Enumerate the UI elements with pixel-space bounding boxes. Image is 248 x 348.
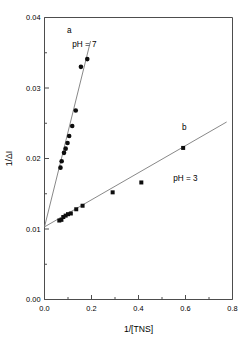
double-reciprocal-plot: 0.00.20.40.60.8 0.000.010.020.030.04 apH… <box>0 0 248 348</box>
x-tick-label: 0.0 <box>39 304 49 313</box>
data-point <box>139 180 143 184</box>
figure-container: 0.00.20.40.60.8 0.000.010.020.030.04 apH… <box>0 0 248 348</box>
annotation-ph7: pH = 7 <box>72 40 97 49</box>
y-tick-label: 0.00 <box>26 295 40 304</box>
data-point <box>181 146 185 150</box>
y-tick-label: 0.01 <box>26 225 40 234</box>
x-tick-label: 0.2 <box>86 304 96 313</box>
y-tick-label: 0.03 <box>26 84 40 93</box>
data-point <box>65 141 70 146</box>
data-point <box>81 204 85 208</box>
y-tick-label: 0.02 <box>26 154 40 163</box>
x-axis-title: 1/[TNS] <box>124 324 153 334</box>
data-point <box>59 159 64 164</box>
data-point <box>70 124 75 129</box>
curve-label-a: a <box>67 26 72 35</box>
x-tick-label: 0.4 <box>133 304 143 313</box>
data-point <box>73 108 78 113</box>
data-point <box>67 134 72 139</box>
data-point <box>85 57 90 62</box>
data-point <box>74 207 78 211</box>
y-axis-title: 1/ΔI <box>4 151 14 166</box>
x-tick-label: 0.8 <box>227 304 237 313</box>
data-point <box>58 165 63 170</box>
y-tick-label: 0.04 <box>26 13 40 22</box>
x-tick-label: 0.6 <box>180 304 190 313</box>
annotation-ph3: pH = 3 <box>173 174 198 183</box>
data-point <box>79 65 84 70</box>
data-point <box>62 151 67 156</box>
data-point <box>69 211 73 215</box>
curve-label-b: b <box>182 123 187 132</box>
data-point <box>111 190 115 194</box>
data-point <box>63 146 68 151</box>
